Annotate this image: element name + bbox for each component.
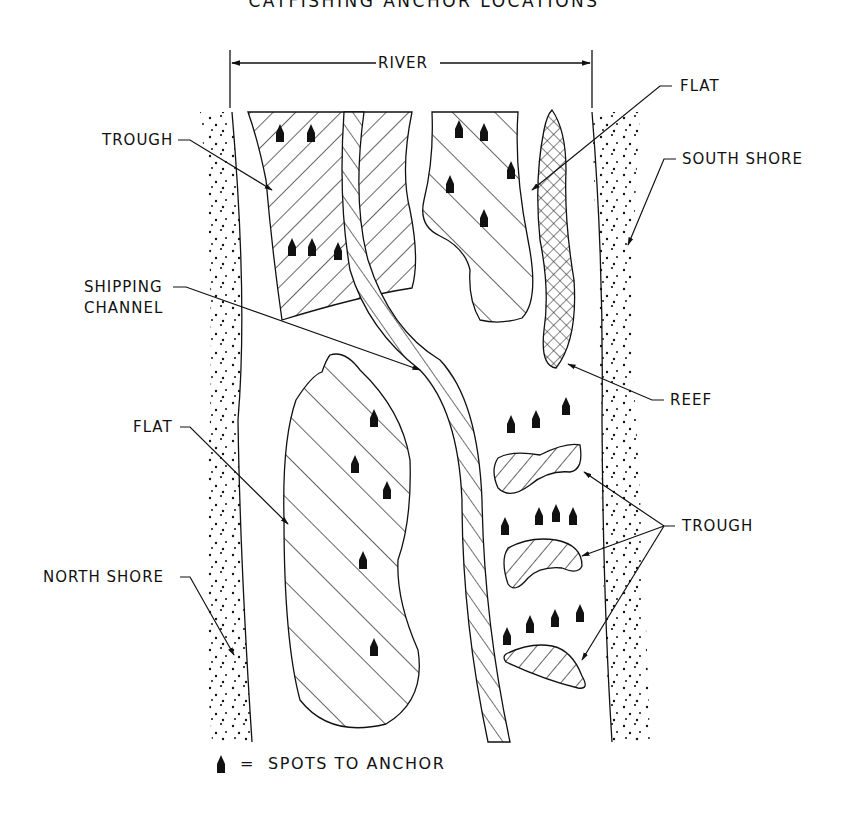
shipping-channel-label-2: CHANNEL — [84, 300, 163, 317]
flat-lower-left — [284, 354, 420, 728]
trough-right-3 — [504, 645, 585, 688]
legend-text: = SPOTS TO ANCHOR — [240, 754, 445, 773]
reef-label: REEF — [670, 392, 712, 409]
trough-right-2 — [504, 539, 582, 588]
legend: = SPOTS TO ANCHOR — [216, 754, 445, 773]
north-shore-label: NORTH SHORE — [43, 569, 164, 586]
trough-label-right: TROUGH — [682, 518, 753, 535]
north-shore — [200, 112, 252, 742]
reef — [538, 110, 575, 368]
flat-label-right: FLAT — [680, 78, 720, 95]
flat-upper-right — [423, 112, 533, 322]
trough-label-top: TROUGH — [102, 132, 173, 149]
anchor-spot-icon — [216, 755, 226, 773]
shipping-channel-label-1: SHIPPING — [84, 279, 163, 296]
trough-right-1 — [494, 444, 581, 493]
south-shore — [592, 112, 650, 742]
trough-upper-left — [248, 112, 416, 320]
south-shore-label: SOUTH SHORE — [682, 151, 803, 168]
river-map — [0, 0, 848, 817]
river-label: RIVER — [378, 55, 428, 72]
flat-label-left: FLAT — [133, 419, 173, 436]
